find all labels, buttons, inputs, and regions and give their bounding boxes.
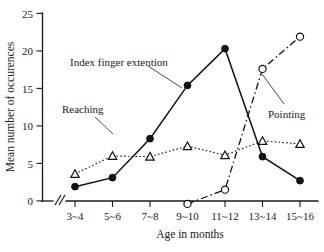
marker-index-finger-11~12 (222, 45, 229, 52)
x-tick-label-15-16: 15~16 (286, 210, 314, 222)
x-tick-label-7-8: 7~8 (142, 210, 159, 222)
marker-index-finger-7~8 (147, 135, 154, 142)
marker-reaching-13~14 (258, 137, 266, 145)
x-tick-label-5-6: 5~6 (104, 210, 121, 222)
series-markers-reaching (71, 137, 304, 178)
marker-reaching-3~4 (71, 170, 79, 178)
annotation-index-finger-extention: Index finger extention (70, 56, 168, 68)
marker-reaching-15~16 (296, 140, 304, 148)
marker-index-finger-3~4 (72, 183, 79, 190)
leader-line-pointing (262, 74, 284, 104)
chart-figure: 25 20 15 10 5 0 3~4 5~6 7~8 9~10 11~12 1… (0, 0, 324, 252)
leader-line-index-finger (148, 66, 182, 88)
y-axis-title: Mean number of occurences (4, 41, 16, 172)
marker-reaching-5~6 (108, 152, 116, 160)
marker-pointing-9~10 (184, 200, 191, 207)
x-tick-label-11-12: 11~12 (211, 210, 239, 222)
y-tick-label-10: 10 (22, 120, 34, 132)
y-tick-marks (37, 13, 43, 201)
x-axis-title: Age in months (156, 228, 224, 241)
y-tick-label-5: 5 (28, 158, 34, 170)
annotation-reaching: Reaching (62, 103, 104, 115)
line-chart: 25 20 15 10 5 0 3~4 5~6 7~8 9~10 11~12 1… (0, 0, 324, 252)
y-tick-label-25: 25 (22, 8, 34, 20)
marker-index-finger-9~10 (184, 82, 191, 89)
annotation-pointing: Pointing (268, 108, 306, 120)
series-markers-pointing (184, 33, 304, 207)
marker-index-finger-5~6 (109, 174, 116, 181)
marker-pointing-15~16 (296, 33, 303, 40)
y-tick-label-20: 20 (22, 45, 34, 57)
marker-pointing-11~12 (221, 186, 228, 193)
series-line-pointing (188, 37, 301, 204)
x-tick-label-3-4: 3~4 (67, 210, 84, 222)
marker-index-finger-13~14 (259, 153, 266, 160)
x-tick-label-13-14: 13~14 (249, 210, 277, 222)
leader-line-reaching (95, 117, 113, 134)
marker-reaching-11~12 (221, 151, 229, 159)
marker-index-finger-15~16 (297, 177, 304, 184)
marker-pointing-13~14 (259, 65, 266, 72)
x-tick-label-9-10: 9~10 (176, 210, 199, 222)
marker-reaching-9~10 (183, 142, 191, 150)
y-tick-label-0: 0 (28, 195, 34, 207)
y-tick-label-15: 15 (22, 83, 34, 95)
